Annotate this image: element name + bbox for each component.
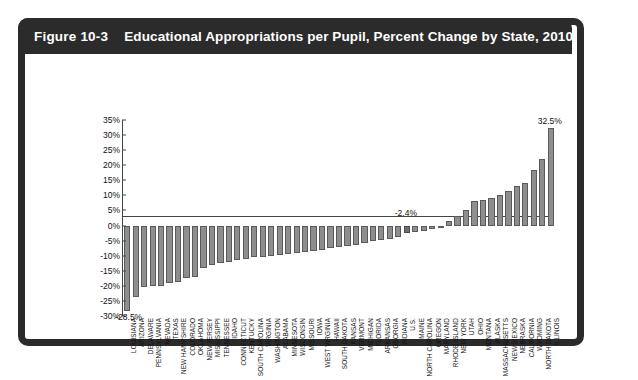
x-axis-tick-label: MICHIGAN — [367, 318, 374, 351]
bar — [412, 226, 418, 233]
bar — [183, 226, 189, 279]
x-axis-tick-label: NORTH CAROLINA — [426, 318, 433, 376]
x-axis-tick-label: MINNESOTA — [291, 318, 298, 356]
x-axis-tick-label: MISSOURI — [308, 318, 315, 350]
x-axis-tick-label: NEW JERSEY — [206, 318, 213, 361]
x-axis-tick-label: KANSAS — [350, 318, 357, 345]
bar — [446, 221, 452, 226]
bar — [497, 195, 503, 225]
bar — [166, 226, 172, 283]
bar — [200, 226, 206, 269]
x-axis-tick-label: U.S. — [409, 318, 416, 331]
x-axis-tick-label: NEW MEXICO — [511, 318, 518, 361]
bar — [158, 226, 164, 286]
y-axis-tick-mark — [122, 285, 126, 286]
x-axis-tick-label: WYOMING — [536, 318, 543, 351]
x-axis-tick-label: OKLAHOMA — [197, 318, 204, 355]
bar — [243, 226, 249, 259]
figure-title-bar: Figure 10-3 Educational Appropriations p… — [18, 18, 572, 54]
x-axis-labels: LOUISIANAARIZONADELAWAREPENNSYLVANIANEVA… — [123, 318, 555, 380]
bar — [395, 226, 401, 237]
x-axis-tick-label: RHODE ISLAND — [452, 318, 459, 367]
x-axis-tick-label: LOUISIANA — [130, 318, 137, 353]
bar — [175, 226, 181, 282]
x-axis-tick-label: WISCONSIN — [299, 318, 306, 356]
y-axis-tick-mark — [122, 120, 126, 121]
bar — [514, 186, 520, 225]
bar — [336, 226, 342, 248]
x-axis-tick-label: SOUTH DAKOTA — [341, 318, 348, 369]
bar — [319, 226, 325, 250]
x-axis-tick-label: NEW HAMPSHIRE — [180, 318, 187, 374]
x-axis-tick-label: HAWAII — [333, 318, 340, 341]
data-label-negative: -28.5% — [115, 312, 142, 322]
figure-number: Figure 10-3 — [34, 29, 108, 44]
x-axis-tick-label: MARYLAND — [443, 318, 450, 354]
bar — [251, 226, 257, 258]
bar — [480, 200, 486, 226]
bar — [327, 226, 333, 249]
x-axis-tick-label: KENTUCKY — [248, 318, 255, 354]
x-axis-tick-label: MASSACHUSETTS — [502, 318, 509, 376]
figure-title: Educational Appropriations per Pupil, Pe… — [124, 29, 572, 44]
x-axis-tick-label: SOUTH CAROLINA — [257, 318, 264, 376]
chart-plot-area: 35%30%25%20%15%10%5%0%-5%-10%-15%-20%-25… — [18, 54, 620, 354]
bar — [277, 226, 283, 256]
x-axis-tick-label: ILLINOIS — [553, 318, 560, 345]
bar — [353, 226, 359, 245]
y-axis-tick-label: 25% — [103, 145, 120, 155]
x-axis-tick-label: INDIANA — [401, 318, 408, 345]
bar — [438, 226, 444, 228]
y-axis-tick-label: -20% — [100, 281, 120, 291]
bar — [378, 226, 384, 240]
bar — [302, 226, 308, 253]
y-axis-tick-mark — [122, 225, 126, 226]
x-axis-tick-label: OHIO — [477, 318, 484, 335]
y-axis-tick-label: 20% — [103, 160, 120, 170]
x-axis-tick-label: DELAWARE — [147, 318, 154, 354]
x-axis-tick-label: CALIFORNIA — [528, 318, 535, 357]
bar — [488, 198, 494, 226]
bar — [217, 226, 223, 264]
x-axis-tick-label: NORTH DAKOTA — [545, 318, 552, 369]
bar — [421, 226, 427, 231]
bar — [522, 183, 528, 225]
y-axis-tick-label: 5% — [108, 205, 120, 215]
x-axis-tick-label: NEBRASKA — [519, 318, 526, 354]
bar — [209, 226, 215, 265]
x-axis-tick-label: IDAHO — [231, 318, 238, 339]
y-axis-tick-mark — [122, 270, 126, 271]
bar — [429, 226, 435, 229]
y-axis-tick-mark — [122, 300, 126, 301]
y-axis-tick-mark — [122, 240, 126, 241]
y-axis-tick-mark — [122, 210, 126, 211]
bar — [260, 226, 266, 257]
x-axis-tick-label: GEORGIA — [392, 318, 399, 349]
bar — [387, 226, 393, 239]
x-axis-tick-label: ARKANSAS — [384, 318, 391, 354]
bar — [454, 216, 460, 226]
y-axis-tick-label: -10% — [100, 251, 120, 261]
bar — [124, 226, 130, 312]
y-axis-tick-mark — [122, 150, 126, 151]
y-axis-tick-label: -15% — [100, 266, 120, 276]
bar — [471, 201, 477, 225]
x-axis-tick-label: WASHINGTON — [274, 318, 281, 363]
bar — [226, 226, 232, 262]
x-axis-tick-label: NEW YORK — [460, 318, 467, 353]
x-axis-tick-label: FLORIDA — [375, 318, 382, 346]
bar — [539, 159, 545, 225]
y-axis-labels: 35%30%25%20%15%10%5%0%-5%-10%-15%-20%-25… — [80, 120, 120, 316]
bar — [463, 210, 469, 225]
x-axis-tick-label: MAINE — [418, 318, 425, 339]
x-axis-tick-label: IOWA — [316, 318, 323, 335]
x-axis-tick-label: TENNESSEE — [223, 318, 230, 358]
y-axis-tick-label: 15% — [103, 175, 120, 185]
bar — [268, 226, 274, 256]
bar — [141, 226, 147, 288]
x-axis-tick-label: VIRGINIA — [265, 318, 272, 347]
y-axis-tick-mark — [122, 255, 126, 256]
bar — [404, 226, 410, 233]
bar — [294, 226, 300, 254]
bar — [285, 226, 291, 255]
